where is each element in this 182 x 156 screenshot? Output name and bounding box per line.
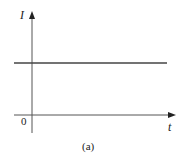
- x-axis-arrow-icon: [168, 112, 176, 118]
- current-time-diagram: I 0 t (a): [0, 0, 182, 156]
- y-axis-label: I: [19, 8, 25, 22]
- origin-label: 0: [21, 115, 27, 127]
- y-axis-arrow-icon: [29, 11, 35, 19]
- caption: (a): [82, 140, 95, 153]
- x-axis-label: t: [168, 120, 172, 134]
